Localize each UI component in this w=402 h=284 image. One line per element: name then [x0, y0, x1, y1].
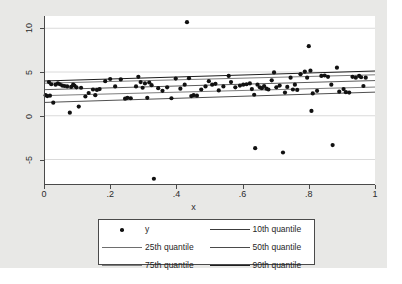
legend-label-y: y — [145, 220, 207, 238]
legend-row: y 10th quantile — [99, 220, 314, 238]
legend-key-10th — [207, 220, 253, 238]
legend-label-25th: 25th quantile — [145, 238, 207, 256]
x-tick-label: 1 — [363, 189, 387, 199]
y-tick-mark — [40, 160, 44, 161]
circle-marker-icon — [120, 228, 124, 232]
x-axis-label: x — [0, 202, 387, 212]
line-marker-icon — [102, 247, 142, 248]
y-tick-mark — [40, 72, 44, 73]
y-tick-label: 10 — [24, 17, 34, 39]
y-axis-line — [44, 16, 45, 185]
line-marker-icon — [210, 247, 250, 248]
legend-label-10th: 10th quantile — [253, 220, 315, 238]
y-tick-label: 0 — [24, 105, 34, 127]
x-tick-label: 0 — [32, 189, 56, 199]
line-marker-icon — [102, 265, 142, 266]
legend-row: 25th quantile 50th quantile — [99, 238, 314, 256]
x-tick-label: .4 — [164, 189, 188, 199]
legend-label-50th: 50th quantile — [253, 238, 315, 256]
y-tick-label: -5 — [24, 149, 34, 171]
legend-key-75th — [99, 256, 145, 274]
chart-legend: y 10th quantile 25th quantile 50th quant… — [98, 219, 315, 265]
line-marker-icon — [210, 229, 250, 230]
x-tick-label: .8 — [297, 189, 321, 199]
x-tick-label: .2 — [98, 189, 122, 199]
legend-label-90th: 90th quantile — [253, 256, 315, 274]
y-tick-label: 5 — [24, 61, 34, 83]
y-tick-mark — [40, 116, 44, 117]
legend-key-25th — [99, 238, 145, 256]
legend-key-90th — [207, 256, 253, 274]
legend-row: 75th quantile 90th quantile — [99, 256, 314, 274]
legend-key-50th — [207, 238, 253, 256]
x-axis-line — [44, 184, 375, 185]
legend-key-y — [99, 220, 145, 238]
x-tick-label: .6 — [231, 189, 255, 199]
graph-canvas: 1050-5 0.2.4.6.81 x y 10th quantile 25th… — [0, 0, 387, 268]
scatter-plot — [44, 16, 375, 184]
y-tick-mark — [40, 28, 44, 29]
legend-label-75th: 75th quantile — [145, 256, 207, 274]
line-marker-icon — [210, 265, 250, 266]
